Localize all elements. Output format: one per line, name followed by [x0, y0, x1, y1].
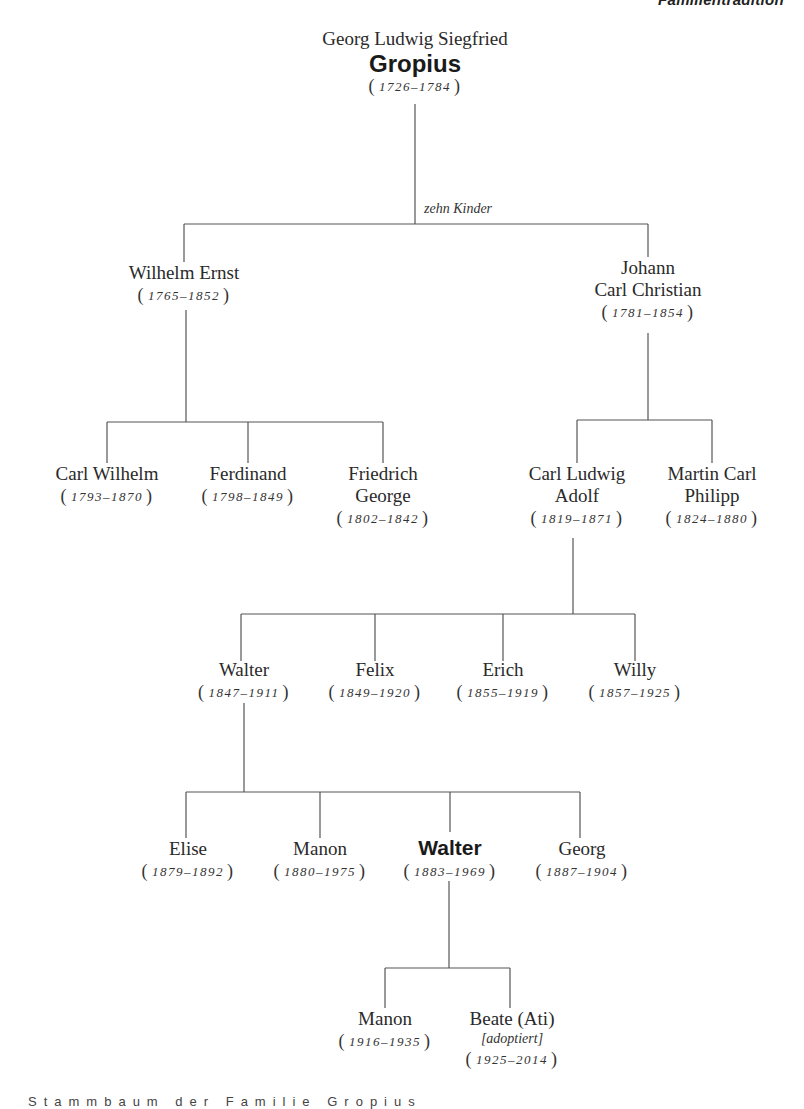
person-dates: 1857–1925 [589, 681, 682, 704]
person-name: Philipp [666, 485, 759, 507]
person-dates: 1802–1842 [337, 507, 430, 530]
person-dates: 1798–1849 [202, 485, 295, 508]
person-dates: 1883–1969 [404, 860, 497, 883]
person-dates: 1781–1854 [594, 301, 701, 324]
tree-node-wilhelm-ernst: Wilhelm Ernst 1765–1852 [129, 262, 240, 307]
adoption-note: [adoptiert] [466, 1030, 559, 1048]
person-name: Johann [594, 257, 701, 279]
tree-node-beate-ati: Beate (Ati) [adoptiert] 1925–2014 [466, 1008, 559, 1071]
person-dates: 1765–1852 [129, 284, 240, 307]
person-name: Manon [274, 838, 367, 860]
children-count-label: zehn Kinder [424, 201, 492, 217]
tree-node-georg: Georg 1887–1904 [536, 838, 629, 883]
person-name: Elise [142, 838, 235, 860]
tree-node-carl-wilhelm: Carl Wilhelm 1793–1870 [56, 463, 159, 508]
person-name: Beate (Ati) [466, 1008, 559, 1030]
person-dates: 1849–1920 [329, 681, 422, 704]
tree-node-elise: Elise 1879–1892 [142, 838, 235, 883]
person-name: George [337, 485, 430, 507]
tree-node-johann-carl-christian: Johann Carl Christian 1781–1854 [594, 257, 701, 324]
tree-node-felix: Felix 1849–1920 [329, 659, 422, 704]
person-name: Manon [339, 1008, 432, 1030]
tree-node-ferdinand: Ferdinand 1798–1849 [202, 463, 295, 508]
person-name: Martin Carl [666, 463, 759, 485]
person-name: Felix [329, 659, 422, 681]
person-name: Walter [404, 836, 497, 860]
person-dates: 1793–1870 [56, 485, 159, 508]
root-given-names: Georg Ludwig Siegfried [322, 28, 507, 50]
person-name: Carl Christian [594, 279, 701, 301]
person-dates: 1916–1935 [339, 1030, 432, 1053]
tree-node-manon-1916: Manon 1916–1935 [339, 1008, 432, 1053]
tree-node-walter-1847: Walter 1847–1911 [198, 659, 290, 704]
tree-node-martin-carl-philipp: Martin Carl Philipp 1824–1880 [666, 463, 759, 530]
person-name: Carl Wilhelm [56, 463, 159, 485]
person-name: Walter [198, 659, 290, 681]
tree-node-manon-1880: Manon 1880–1975 [274, 838, 367, 883]
person-name: Ferdinand [202, 463, 295, 485]
person-dates: 1819–1871 [529, 507, 626, 530]
person-name: Erich [457, 659, 550, 681]
person-dates: 1880–1975 [274, 860, 367, 883]
person-dates: 1925–2014 [466, 1048, 559, 1071]
person-name: Carl Ludwig [529, 463, 626, 485]
tree-node-carl-ludwig-adolf: Carl Ludwig Adolf 1819–1871 [529, 463, 626, 530]
tree-node-root: Georg Ludwig Siegfried Gropius 1726–1784 [322, 28, 507, 96]
tree-node-willy: Willy 1857–1925 [589, 659, 682, 704]
page-footer-cropped: Stammbaum der Familie Gropius [28, 1094, 422, 1109]
person-dates: 1824–1880 [666, 507, 759, 530]
person-name: Willy [589, 659, 682, 681]
tree-node-walter-1883-highlighted: Walter 1883–1969 [404, 836, 497, 883]
person-dates: 1855–1919 [457, 681, 550, 704]
person-dates: 1847–1911 [198, 681, 290, 704]
person-name: Friedrich [337, 463, 430, 485]
tree-node-erich: Erich 1855–1919 [457, 659, 550, 704]
person-name: Georg [536, 838, 629, 860]
person-name: Adolf [529, 485, 626, 507]
person-dates: 1879–1892 [142, 860, 235, 883]
root-dates: 1726–1784 [322, 77, 507, 96]
person-dates: 1887–1904 [536, 860, 629, 883]
tree-node-friedrich-george: Friedrich George 1802–1842 [337, 463, 430, 530]
person-name: Wilhelm Ernst [129, 262, 240, 284]
root-surname: Gropius [322, 50, 507, 77]
